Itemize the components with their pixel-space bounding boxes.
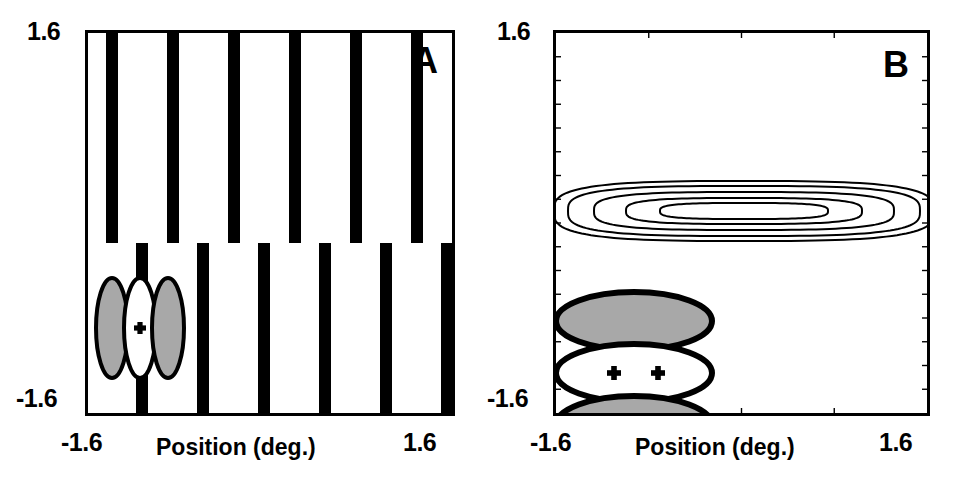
panel-a-receptive-field [88,33,452,413]
panel-b-rf-lobes [556,292,712,416]
panel-a-rf-lobe-off-2 [152,278,184,378]
panel-b-plus-marker-1 [655,366,661,380]
panel-a-plot-area: A [85,30,455,416]
panel-b: 1.6 -1.6 -1.6 1.6 Position (deg.) B [489,0,978,483]
panel-b-contour-level-2 [568,186,920,236]
panel-a-plus-marker [137,322,142,334]
panel-b-rf-lobe-off-2 [556,396,712,416]
panel-a-y-max-label: 1.6 [27,17,60,46]
panel-a-x-min-label: -1.6 [61,428,102,457]
panel-b-plus-marker-0 [611,366,617,380]
panel-a: 1.6 -1.6 -1.6 1.6 Position (deg.) A [0,0,489,483]
panel-b-y-max-label: 1.6 [497,17,530,46]
panel-b-x-min-label: -1.6 [530,428,571,457]
panel-b-x-axis-title: Position (deg.) [635,434,795,461]
panel-b-contours [554,181,930,241]
panel-b-graphics [556,33,927,413]
panel-a-x-axis-title: Position (deg.) [156,434,316,461]
panel-a-x-max-label: 1.6 [403,428,436,457]
panel-b-plot-area: B [553,30,930,416]
panel-b-y-min-label: -1.6 [487,384,528,413]
panel-a-y-min-label: -1.6 [16,384,57,413]
panel-b-contour-level-5 [660,203,828,219]
panel-b-x-max-label: 1.6 [879,428,912,457]
panel-b-contour-level-4 [626,198,862,224]
figure-root: 1.6 -1.6 -1.6 1.6 Position (deg.) A 1.6 … [0,0,978,483]
